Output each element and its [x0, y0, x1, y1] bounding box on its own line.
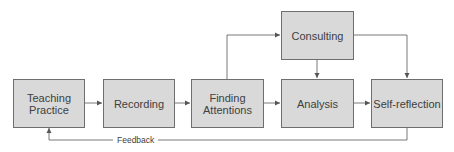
node-self-reflection-label: Self-reflection [373, 98, 440, 110]
node-finding-attentions-line2: Attentions [203, 104, 252, 116]
node-recording-label: Recording [114, 98, 164, 110]
node-teaching-practice: Teaching Practice [13, 79, 85, 128]
node-finding-attentions-line1: Finding [203, 92, 252, 104]
node-teaching-practice-line1: Teaching [27, 92, 71, 104]
arrow-feedback [49, 127, 407, 140]
node-consulting: Consulting [281, 11, 354, 60]
node-teaching-practice-line2: Practice [27, 104, 71, 116]
node-analysis: Analysis [281, 79, 354, 128]
connector-lines [0, 0, 454, 152]
arrow-finding-to-consulting [227, 35, 280, 79]
node-self-reflection: Self-reflection [371, 79, 443, 128]
arrow-consulting-to-self-reflection [353, 35, 407, 78]
node-recording: Recording [103, 79, 175, 128]
feedback-label: Feedback [113, 135, 158, 145]
node-consulting-label: Consulting [292, 30, 344, 42]
node-finding-attentions: Finding Attentions [191, 79, 264, 128]
node-analysis-label: Analysis [297, 98, 338, 110]
